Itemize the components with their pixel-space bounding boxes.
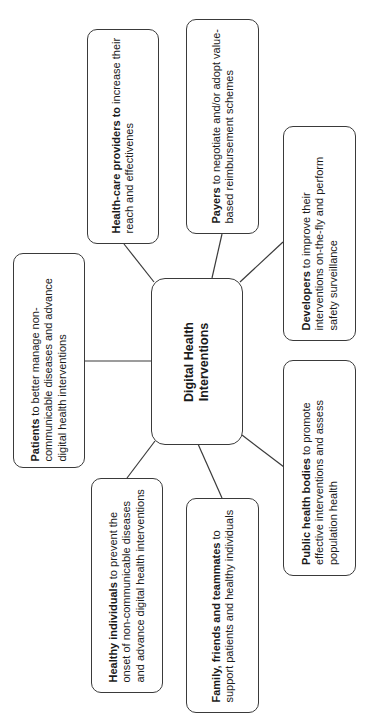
stakeholder-box-healthy-individuals: Healthy individuals to prevent the onset…: [91, 478, 163, 693]
connector-developers: [240, 242, 283, 282]
stakeholder-name: Patients: [29, 418, 41, 461]
stakeholder-text: Healthy individuals to prevent the onset…: [107, 483, 147, 688]
connector-health-care-providers: [124, 244, 154, 282]
stakeholder-text: Developers to improve their intervention…: [300, 131, 340, 336]
stakeholder-box-family-friends-teammates: Family, friends and teammates to support…: [186, 498, 259, 713]
stakeholder-name: Health-care providers to: [110, 106, 122, 233]
stakeholder-name: Family, friends and teammates: [209, 542, 221, 702]
stakeholder-text: Public health bodies to promote effectiv…: [300, 365, 340, 571]
stakeholder-text: Family, friends and teammates to support…: [209, 503, 236, 708]
stakeholder-box-health-care-providers: Health-care providers to increase their …: [87, 29, 159, 244]
stakeholder-diagram: Digital Health Interventions Patients to…: [0, 0, 371, 725]
connector-payers: [212, 234, 222, 278]
connector-healthy-individuals: [127, 441, 155, 478]
center-node: Digital Health Interventions: [151, 278, 243, 445]
stakeholder-box-developers: Developers to improve their intervention…: [283, 126, 356, 341]
stakeholder-name: Payers: [209, 187, 221, 223]
connector-family-friends-teammates: [198, 444, 222, 498]
stakeholder-name: Healthy individuals: [107, 582, 119, 682]
stakeholder-name: Public health bodies: [300, 458, 312, 565]
stakeholder-text: Patients to better manage non-communicab…: [29, 258, 69, 463]
stakeholder-text: Payers to negotiate and/or adopt value-b…: [209, 24, 236, 229]
connector-public-health-bodies: [242, 435, 284, 467]
center-label: Digital Health Interventions: [182, 282, 212, 442]
stakeholder-name: Developers: [300, 271, 312, 330]
stakeholder-box-payers: Payers to negotiate and/or adopt value-b…: [186, 19, 259, 234]
stakeholder-text: Health-care providers to increase their …: [110, 34, 137, 239]
stakeholder-box-public-health-bodies: Public health bodies to promote effectiv…: [283, 360, 356, 576]
stakeholder-box-patients: Patients to better manage non-communicab…: [13, 253, 85, 468]
